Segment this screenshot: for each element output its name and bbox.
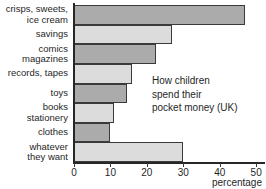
category-label-toys: toys (0, 84, 71, 104)
bar (74, 123, 110, 143)
category-label-books-stationery: books stationery (0, 103, 71, 123)
annotation-line-1: How children (152, 74, 238, 88)
category-label-crisps-sweets-ice-cream: crisps, sweets, ice cream (0, 5, 71, 25)
category-label-line1: toys (51, 88, 68, 99)
category-label-line1: savings (36, 29, 68, 40)
annotation-line-3: pocket money (UK) (152, 101, 238, 115)
bar (74, 25, 172, 45)
y-axis-line (73, 3, 75, 164)
category-axis-labels: crisps, sweets, ice cream savings comics… (0, 5, 71, 162)
bar (74, 103, 114, 123)
bar (74, 64, 132, 84)
x-axis-tick-label: 50 (251, 167, 262, 178)
x-axis-tick-label: 10 (105, 167, 116, 178)
category-label-savings: savings (0, 25, 71, 45)
category-label-records-tapes: records, tapes (0, 64, 71, 84)
bar-row (74, 44, 266, 64)
x-axis-tick-label: 0 (71, 167, 77, 178)
category-label-line1: records, tapes (8, 68, 68, 79)
bar (74, 84, 127, 104)
category-label-whatever-they-want: whatever they want (0, 142, 71, 162)
bar-row (74, 142, 266, 162)
x-axis-line (73, 162, 265, 164)
bar (74, 5, 245, 25)
x-axis-title: percentage (212, 177, 262, 188)
annotation-line-2: spend their (152, 88, 238, 102)
category-label-comics-magazines: comics magazines (0, 44, 71, 64)
x-axis-tick-label: 30 (178, 167, 189, 178)
category-label-clothes: clothes (0, 123, 71, 143)
bar (74, 44, 156, 64)
bar (74, 142, 183, 162)
category-label-line1: clothes (38, 127, 68, 138)
bar-row (74, 123, 266, 143)
x-axis-tick-label: 20 (141, 167, 152, 178)
category-label-line2: they want (27, 152, 68, 163)
x-axis-tick-label: 40 (214, 167, 225, 178)
bar-chart: crisps, sweets, ice cream savings comics… (0, 0, 266, 189)
chart-annotation: How children spend their pocket money (U… (152, 74, 238, 115)
bar-row (74, 25, 266, 45)
bar-row (74, 5, 266, 25)
